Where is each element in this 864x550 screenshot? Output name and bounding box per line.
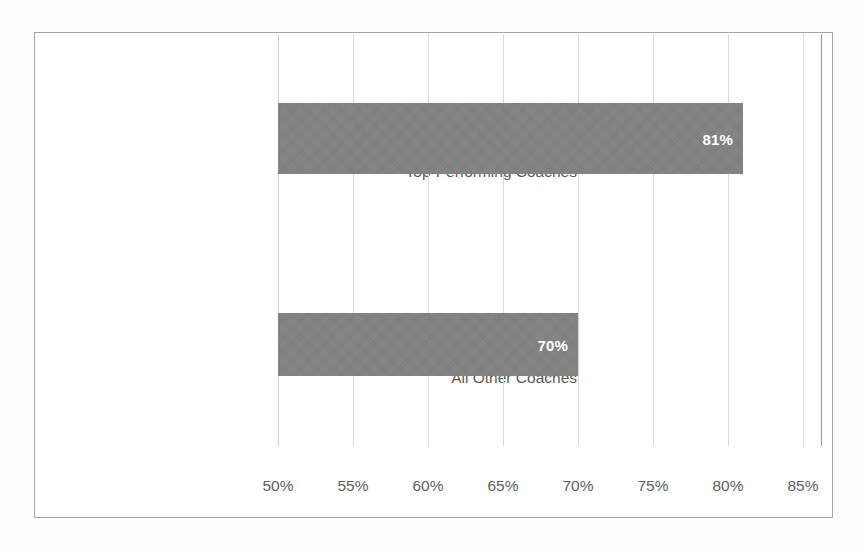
xtick-label-70: 70%	[562, 477, 593, 495]
xtick-label-80: 80%	[712, 477, 743, 495]
plot-area: 81% 70%	[278, 34, 804, 446]
bar-all-other-coaches[interactable]: 70%	[278, 313, 578, 376]
xtick-label-50: 50%	[262, 477, 293, 495]
bar-row-all-other-coaches: 70%	[278, 313, 578, 376]
gridline-50	[278, 34, 279, 446]
xtick-label-85: 85%	[787, 477, 818, 495]
xtick-label-75: 75%	[637, 477, 668, 495]
gridline-80	[728, 34, 729, 446]
bar-row-top-performing-coaches: 81%	[278, 103, 743, 174]
bar-top-performing-coaches[interactable]: 81%	[278, 103, 743, 174]
plot-right-edge	[821, 34, 822, 446]
gridline-65	[503, 34, 504, 446]
gridline-85	[803, 34, 804, 446]
gridline-60	[428, 34, 429, 446]
xtick-label-55: 55%	[337, 477, 368, 495]
chart-frame: Top-Performing Coaches All Other Coaches…	[34, 32, 833, 518]
gridline-75	[653, 34, 654, 446]
gridline-55	[353, 34, 354, 446]
bar-value-all-other-coaches: 70%	[537, 336, 568, 353]
gridline-70	[578, 34, 579, 446]
xtick-label-65: 65%	[487, 477, 518, 495]
bar-value-top-performing-coaches: 81%	[702, 130, 733, 147]
scanned-page: Top-Performing Coaches All Other Coaches…	[0, 0, 864, 550]
xtick-label-60: 60%	[412, 477, 443, 495]
